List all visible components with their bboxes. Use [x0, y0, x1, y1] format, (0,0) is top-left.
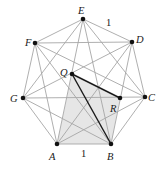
label-G: G [10, 93, 18, 104]
segment-CG [23, 97, 145, 98]
length-label-AB: 1 [81, 148, 86, 159]
length-label-ED: 1 [106, 17, 111, 28]
segment-EF [35, 19, 83, 43]
segment-BD [111, 42, 132, 144]
point-F [33, 41, 38, 46]
label-F: F [24, 37, 32, 48]
point-R [118, 96, 123, 101]
point-E [81, 17, 86, 22]
point-B [109, 142, 114, 147]
point-G [21, 96, 26, 101]
label-Q: Q [60, 67, 68, 78]
point-A [55, 142, 60, 147]
point-D [130, 40, 135, 45]
label-A: A [48, 151, 56, 162]
label-D: D [135, 34, 144, 45]
label-E: E [77, 5, 85, 16]
point-C [143, 95, 148, 100]
point-Q [70, 72, 75, 77]
label-B: B [107, 151, 114, 162]
segment-DF [35, 42, 132, 43]
heptagon-diagram: ABCDEFGQR11 [0, 0, 167, 169]
label-C: C [148, 92, 156, 103]
label-R: R [109, 103, 117, 114]
